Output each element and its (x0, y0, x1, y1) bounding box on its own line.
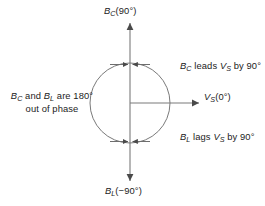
label-bc-top-angle: (90°) (116, 5, 137, 16)
label-out-of-phase-subscript2: L (50, 94, 54, 103)
label-bl-bottom: BL(−90°) (105, 185, 142, 198)
label-out-of-phase-subscript: C (17, 94, 22, 103)
label-bc-leads-mid: leads (192, 60, 220, 71)
label-bl-bottom-subscript: L (111, 189, 115, 198)
label-bl-bottom-angle: (−90°) (115, 185, 142, 196)
label-bl-lags-tail: by 90° (225, 131, 255, 142)
label-out-of-phase: BC and BL are 180° out of phase (6, 90, 98, 114)
label-bc-leads-subscript2: S (226, 64, 231, 73)
label-bl-lags-subscript2: S (220, 135, 225, 144)
label-out-of-phase-tail: are 180° (54, 90, 93, 101)
label-bc-leads-subscript: C (186, 64, 191, 73)
label-bl-lags-mid: lags (190, 131, 213, 142)
label-bc-top-subscript: C (110, 9, 115, 18)
label-bl-lags-subscript: L (186, 135, 190, 144)
phasor-diagram: BC(90°) BL(−90°) VS(0°) BC leads VS by 9… (0, 0, 265, 206)
label-vs-right-subscript: S (210, 95, 215, 104)
label-bl-lags-symbol2: V (213, 131, 219, 142)
label-bc-leads: BC leads VS by 90° (180, 60, 261, 73)
label-out-of-phase-line2: out of phase (6, 103, 98, 115)
label-vs-right-angle: (0°) (215, 91, 231, 102)
label-bl-lags: BL lags VS by 90° (180, 131, 255, 144)
label-out-of-phase-mid: and (22, 90, 43, 101)
label-bc-leads-tail: by 90° (231, 60, 261, 71)
label-vs-right: VS(0°) (204, 91, 231, 104)
label-bc-top: BC(90°) (104, 5, 136, 18)
